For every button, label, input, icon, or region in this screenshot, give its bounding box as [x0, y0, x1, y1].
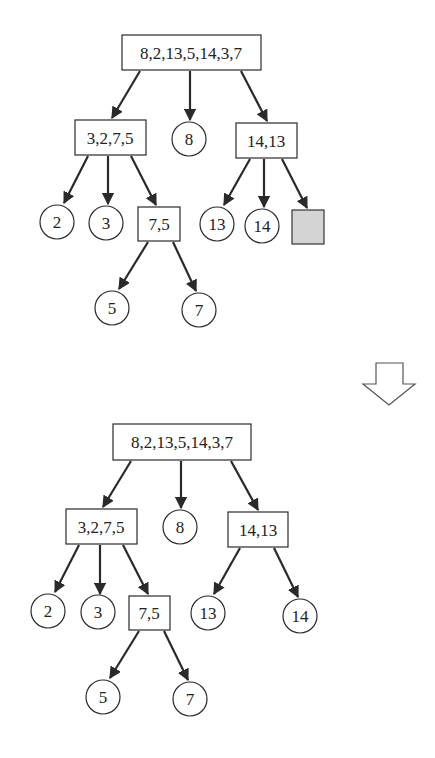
node-label: 7,5: [138, 604, 159, 623]
node-label: 13: [200, 604, 217, 623]
node-root: 8,2,13,5,14,3,7: [122, 35, 261, 70]
empty-node: [292, 210, 324, 244]
leaf-node: 7: [173, 682, 207, 716]
leaf-node: 7: [182, 293, 216, 327]
edge: [103, 461, 131, 507]
node-label: 8,2,13,5,14,3,7: [131, 433, 234, 452]
edge: [231, 461, 258, 510]
edge: [123, 545, 148, 594]
node-label: 8: [185, 130, 194, 149]
internal-node: 7,5: [138, 207, 180, 241]
node-label: 5: [99, 688, 108, 707]
edge: [214, 548, 240, 594]
node-label: 8,2,13,5,14,3,7: [140, 44, 243, 63]
leaf-node: 3: [81, 595, 115, 629]
node-label: 2: [44, 602, 53, 621]
edge: [241, 71, 267, 121]
edge: [64, 156, 88, 203]
node-label: 3: [102, 214, 111, 233]
edge: [119, 242, 148, 289]
leaf-node: 14: [283, 599, 317, 633]
node-label: 14: [254, 217, 272, 236]
node-label: 8: [176, 518, 185, 537]
edge: [224, 159, 250, 205]
leaf-node: 3: [89, 206, 123, 240]
edge: [112, 71, 140, 118]
leaf-node: 5: [86, 680, 120, 714]
leaf-node: 13: [200, 207, 234, 241]
leaf-node: 5: [95, 291, 129, 325]
node-label: 14,13: [239, 521, 277, 540]
node-middle: 8: [172, 122, 206, 156]
leaf-node: 13: [191, 596, 225, 630]
top-tree: 8,2,13,5,14,3,7 3,2,7,5 8 14,13 2 3 7,5: [40, 35, 324, 327]
bottom-tree: 8,2,13,5,14,3,7 3,2,7,5 8 14,13 2 3 7,5: [31, 424, 317, 716]
node-label: 13: [209, 215, 226, 234]
edge: [282, 159, 307, 208]
edge: [173, 242, 196, 291]
leaf-node: 2: [31, 594, 65, 628]
internal-node: 7,5: [129, 596, 170, 630]
node-label: 5: [108, 299, 117, 318]
down-arrow-icon: [363, 363, 415, 405]
node-label: 14,13: [247, 132, 285, 151]
edge: [164, 631, 188, 680]
node-label: 7,5: [148, 215, 169, 234]
node-label: 14: [292, 607, 310, 626]
edge: [110, 631, 139, 678]
node-label: 7: [195, 301, 204, 320]
node-right: 14,13: [228, 512, 288, 547]
node-label: 7: [186, 690, 195, 709]
node-right: 14,13: [236, 123, 297, 158]
node-middle: 8: [163, 510, 197, 544]
node-left: 3,2,7,5: [66, 509, 137, 544]
node-label: 3,2,7,5: [87, 129, 134, 148]
node-label: 3: [94, 603, 103, 622]
edge: [131, 156, 156, 205]
leaf-node: 2: [40, 205, 74, 239]
edge: [55, 545, 79, 592]
leaf-node: 14: [245, 209, 279, 243]
node-root: 8,2,13,5,14,3,7: [113, 424, 251, 460]
node-label: 3,2,7,5: [78, 518, 125, 537]
edge: [274, 548, 298, 597]
node-left: 3,2,7,5: [75, 120, 146, 155]
tree-diagram: 8,2,13,5,14,3,7 3,2,7,5 8 14,13 2 3 7,5: [0, 0, 435, 758]
node-label: 2: [53, 213, 62, 232]
